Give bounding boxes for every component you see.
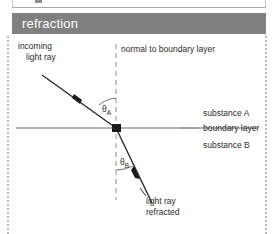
normal-label: normal to boundary layer <box>121 44 215 55</box>
angle-a-subscript: A <box>107 109 111 116</box>
refracted-ray-label-line1: light ray <box>146 196 176 207</box>
angle-a-label: θA <box>102 104 111 116</box>
substance-a-label: substance A <box>203 108 249 119</box>
angle-b-subscript: B <box>125 162 129 169</box>
incoming-ray-label-line2: light ray <box>26 52 56 63</box>
incidence-point-node <box>112 124 121 132</box>
substance-b-label: substance B <box>203 140 250 151</box>
refraction-figure: refraction incoming light ray normal to … <box>0 0 275 234</box>
refracted-ray-label-line2: refracted <box>146 207 180 218</box>
incident-ray-arrow-icon <box>72 94 82 104</box>
boundary-layer-label: boundary layer <box>203 123 259 134</box>
incoming-ray-label-line1: incoming <box>18 41 52 52</box>
angle-b-label: θB <box>120 157 129 169</box>
